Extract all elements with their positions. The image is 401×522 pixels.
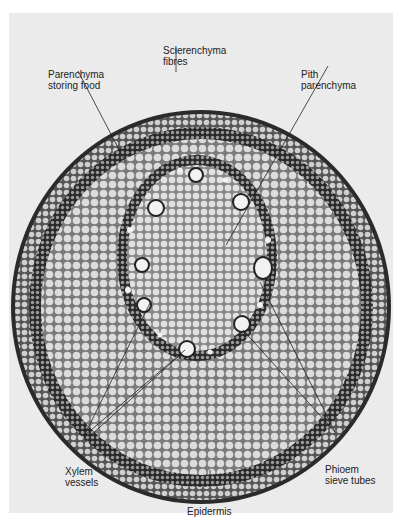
label-phloem-sieve-tubes: Phioemsieve tubes [325,442,376,497]
label-pith-parenchyma: Pithparenchyma [301,47,356,102]
label-xylem-vessels: Xylemvessels [65,444,98,499]
label-parenchyma-storing-food: Parenchymastoring food [48,47,104,102]
label-epidermis: Epidermis [187,484,231,522]
label-sclerenchyma-fibres: Sclerenchymafibres [163,23,226,78]
